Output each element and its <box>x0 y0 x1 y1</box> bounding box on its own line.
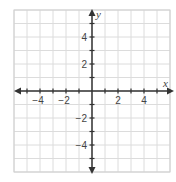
x-tick-label: 4 <box>141 95 147 106</box>
y-tick-label: 2 <box>81 59 87 70</box>
x-tick-label: 2 <box>115 95 121 106</box>
y-tick-label: 4 <box>81 32 87 43</box>
coordinate-plane: −4−22442−2−4 x y <box>0 0 176 182</box>
y-axis-down-arrow-icon <box>89 167 96 174</box>
axes <box>14 9 174 174</box>
x-tick-label: −4 <box>32 95 44 106</box>
y-tick-label: −2 <box>76 113 88 124</box>
x-axis-left-arrow-icon <box>14 88 21 95</box>
x-axis-label: x <box>162 77 168 89</box>
y-axis-label: y <box>95 8 101 20</box>
y-tick-label: −4 <box>76 140 88 151</box>
x-tick-label: −2 <box>58 95 70 106</box>
